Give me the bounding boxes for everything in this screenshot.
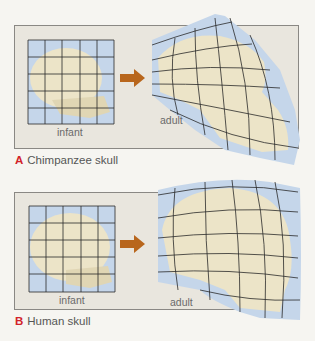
caption-b: BHuman skull (15, 315, 91, 327)
caption-a: AChimpanzee skull (15, 154, 118, 166)
chimp-adult-label: adult (160, 114, 183, 126)
caption-b-text: Human skull (27, 315, 90, 327)
caption-a-letter: A (15, 154, 23, 166)
caption-a-text: Chimpanzee skull (27, 154, 118, 166)
chimp-adult-grid (152, 14, 300, 165)
human-infant-label: infant (59, 294, 85, 306)
arrow-right-icon (120, 69, 145, 87)
human-adult-label: adult (170, 296, 193, 308)
arrow-right-icon (120, 235, 145, 253)
chimp-infant-grid (28, 40, 114, 124)
caption-b-letter: B (15, 315, 23, 327)
skull-diagrams (0, 0, 315, 341)
chimp-infant-label: infant (57, 126, 83, 138)
human-infant-grid (29, 206, 115, 292)
